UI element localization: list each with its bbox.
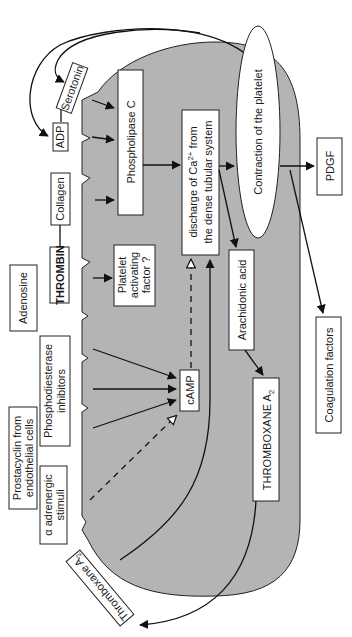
contraction-ellipse: Contraction of the platelet <box>236 26 280 238</box>
coagulation-factors-box: Coagulation factors <box>316 317 341 433</box>
thromboxane-a2-box: THROMBOXANE A2 <box>253 378 279 501</box>
svg-text:α adrenergic: α adrenergic <box>42 474 54 536</box>
svg-text:activating: activating <box>128 252 140 298</box>
adenosine-label: Adenosine <box>10 265 37 331</box>
phosphodiesterase-inhibitors-label: Phosphodiesterase inhibitors <box>40 336 70 446</box>
arachidonic-acid-box: Arachidonic acid <box>229 250 254 350</box>
pdgf-box: PDGF <box>317 138 342 195</box>
collagen-label: Collagen <box>51 173 70 225</box>
svg-text:inhibitors: inhibitors <box>55 368 67 413</box>
svg-text:discharge of Ca2+ from: discharge of Ca2+ from <box>186 126 199 237</box>
svg-text:Coagulation factors: Coagulation factors <box>323 327 335 422</box>
phospholipase-c-box: Phospholipase C <box>118 70 143 215</box>
svg-text:endothelial cells: endothelial cells <box>23 418 35 497</box>
svg-text:Arachidonic acid: Arachidonic acid <box>236 260 248 341</box>
svg-text:Contraction of the platelet: Contraction of the platelet <box>252 69 264 194</box>
svg-text:Adenosine: Adenosine <box>17 272 29 324</box>
svg-text:THROMBIN: THROMBIN <box>54 245 66 304</box>
camp-box: cAMP <box>180 370 199 411</box>
calcium-discharge-box: discharge of Ca2+ from the dense tubular… <box>182 110 219 255</box>
adp-label: ADP <box>53 123 68 151</box>
svg-text:Phosphodiesterase: Phosphodiesterase <box>42 344 54 438</box>
svg-text:cAMP: cAMP <box>184 375 196 404</box>
svg-text:stimuli: stimuli <box>54 489 66 520</box>
svg-text:factor ?: factor ? <box>140 257 152 294</box>
prostacyclin-label: Prostacyclin from endothelial cells <box>9 407 37 509</box>
svg-text:Prostacyclin from: Prostacyclin from <box>11 416 23 500</box>
svg-text:the dense tubular system: the dense tubular system <box>202 121 214 244</box>
platelet-activation-diagram: Serotonin ADP Collagen THROMBIN Adenosin… <box>0 0 352 637</box>
svg-text:Phospholipase C: Phospholipase C <box>125 100 137 183</box>
alpha-adrenergic-label: α adrenergic stimuli <box>40 466 67 544</box>
svg-text:ADP: ADP <box>54 126 66 149</box>
platelet-activating-factor-box: Platelet activating factor ? <box>114 245 155 306</box>
thrombin-label: THROMBIN <box>50 245 69 304</box>
svg-text:Collagen: Collagen <box>54 177 66 220</box>
svg-text:PDGF: PDGF <box>324 150 336 181</box>
svg-text:Platelet: Platelet <box>116 257 128 294</box>
